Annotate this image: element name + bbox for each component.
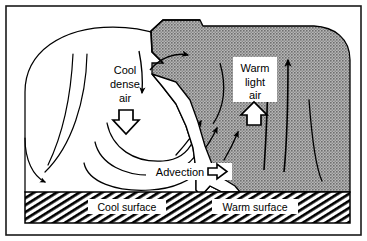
cool-dense-air-line-3: air xyxy=(119,92,132,104)
advection-label: Advection xyxy=(156,166,204,178)
advection-label-group: Advection xyxy=(146,163,232,180)
warm-surface-label: Warm surface xyxy=(223,201,288,213)
cool-dense-air-line-2: dense xyxy=(110,78,140,90)
sea-breeze-circulation-diagram: Cool surface Warm surface Cool dense air… xyxy=(0,0,367,241)
warm-light-air-label-group: Warm light air xyxy=(233,57,277,102)
warm-light-air-line-1: Warm xyxy=(241,62,270,74)
warm-light-air-line-2: light xyxy=(245,76,265,88)
ground-band xyxy=(25,192,350,223)
warm-light-air-line-3: air xyxy=(249,89,262,101)
cool-dense-air-line-1: Cool xyxy=(114,64,137,76)
cool-surface-label: Cool surface xyxy=(98,201,157,213)
diagram-canvas: Cool surface Warm surface Cool dense air… xyxy=(0,0,367,241)
